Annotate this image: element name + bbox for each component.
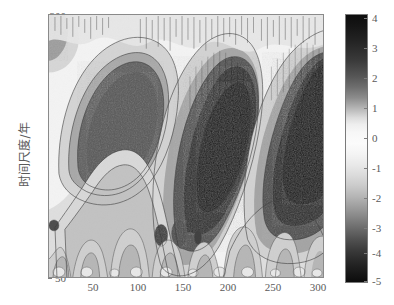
colorbar-tick-label: 4 bbox=[372, 13, 378, 24]
contour-figure: 时间尺度/年 50 100 150 200 250 300 50 100 150… bbox=[0, 0, 394, 305]
colorbar-tick-label: 0 bbox=[372, 133, 378, 144]
colorbar-tick-label: -5 bbox=[372, 276, 381, 287]
colorbar-tick-mark bbox=[364, 253, 368, 254]
x-tick-label: 300 bbox=[310, 282, 327, 293]
colorbar-tick-mark bbox=[364, 18, 368, 19]
colorbar-tick-mark bbox=[364, 198, 368, 199]
x-tick-label: 250 bbox=[265, 282, 282, 293]
colorbar-tick-label: -1 bbox=[372, 163, 381, 174]
y-tick-mark bbox=[48, 278, 52, 279]
colorbar-tick-mark bbox=[364, 48, 368, 49]
colorbar-tick-mark bbox=[364, 78, 368, 79]
x-tick-label: 150 bbox=[175, 282, 192, 293]
colorbar-tick-label: 1 bbox=[372, 103, 378, 114]
contour-field bbox=[49, 15, 323, 277]
colorbar-tick-label: -3 bbox=[372, 223, 381, 234]
x-tick-label: 50 bbox=[88, 282, 99, 293]
colorbar-tick-mark bbox=[364, 138, 368, 139]
colorbar-tick-mark bbox=[364, 168, 368, 169]
contour-plot-area bbox=[48, 14, 324, 278]
colorbar-tick-label: 3 bbox=[372, 43, 378, 54]
colorbar-tick-mark bbox=[364, 228, 368, 229]
colorbar-tick-mark bbox=[364, 281, 368, 282]
x-tick-label: 200 bbox=[220, 282, 237, 293]
colorbar-tick-label: -2 bbox=[372, 193, 381, 204]
x-tick-label: 100 bbox=[130, 282, 147, 293]
colorbar-tick-label: -4 bbox=[372, 248, 381, 259]
y-axis-label: 时间尺度/年 bbox=[15, 90, 32, 220]
colorbar bbox=[345, 14, 368, 283]
colorbar-tick-mark bbox=[364, 108, 368, 109]
colorbar-tick-label: 2 bbox=[372, 73, 378, 84]
